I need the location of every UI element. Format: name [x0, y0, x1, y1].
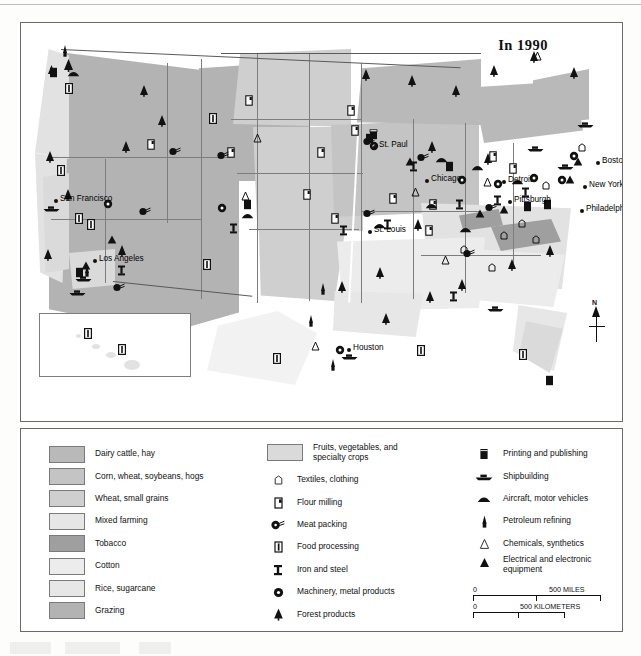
- ship-icon: [75, 275, 92, 282]
- ship-icon: [527, 145, 544, 152]
- legend-label: Cotton: [95, 561, 120, 571]
- open-triangle-icon: [483, 177, 492, 187]
- region-southern-plains-wheat: [259, 231, 345, 301]
- conifer-tree-icon: [157, 115, 167, 127]
- ibeam-icon: [117, 265, 126, 276]
- state-boundary: [237, 173, 363, 174]
- legend-item: Petroleum refining: [473, 510, 623, 532]
- legend-label: Meat packing: [297, 520, 347, 530]
- book-icon: [365, 133, 374, 144]
- filled-triangle-icon: [499, 205, 509, 214]
- legend-label: Chemicals, synthetics: [503, 539, 584, 549]
- state-boundary: [361, 63, 362, 303]
- scale-zero-label: 0: [473, 585, 477, 594]
- state-boundary: [51, 157, 231, 158]
- filled-triangle-icon: [107, 235, 117, 244]
- conifer-tree-icon: [489, 65, 499, 77]
- legend-panel: Dairy cattle, hay Corn, wheat, soybeans,…: [20, 428, 623, 632]
- color-swatch: [49, 513, 85, 530]
- city-dot: [425, 179, 429, 183]
- conifer-tree-icon: [451, 85, 461, 97]
- meat-packing-icon: [363, 209, 375, 218]
- legend-label: Machinery, metal products: [297, 587, 395, 597]
- state-boundary: [105, 159, 106, 283]
- hawaii-island: [92, 344, 100, 349]
- color-swatch: [49, 446, 85, 463]
- ship-icon: [473, 470, 495, 484]
- scale-bars: 0 500 MILES 0 500 KILOMETERS: [473, 587, 625, 623]
- car-dome-icon: [473, 492, 495, 506]
- flour-sack-icon: [331, 213, 339, 224]
- legend-item: Textiles, clothing: [267, 469, 467, 491]
- color-swatch: [49, 535, 85, 552]
- legend-label: Electrical and electronic equipment: [503, 555, 591, 575]
- region-southeast-cotton: [469, 249, 565, 307]
- city-label: New York: [589, 180, 623, 189]
- color-swatch: [49, 602, 85, 619]
- textile-spool-icon: [531, 235, 541, 244]
- legend-label: Iron and steel: [297, 565, 348, 575]
- oil-derrick-icon: [319, 283, 327, 295]
- scale-tick: [473, 595, 474, 601]
- conifer-tree-icon: [267, 608, 289, 622]
- state-boundary: [465, 123, 466, 293]
- food-can-icon: [417, 345, 425, 356]
- flour-sack-icon: [267, 496, 289, 510]
- city-label: St. Paul: [379, 140, 408, 149]
- legend-item: Food processing: [267, 536, 467, 558]
- conifer-tree-icon: [121, 141, 131, 153]
- conifer-tree-icon: [43, 249, 53, 261]
- color-swatch: [49, 558, 85, 575]
- north-arrow-crossbar: [589, 326, 605, 327]
- legend-item: Meat packing: [267, 514, 467, 536]
- flour-sack-icon: [489, 151, 497, 162]
- filled-triangle-icon: [81, 261, 91, 270]
- legend-item: Corn, wheat, soybeans, hogs: [49, 465, 249, 487]
- conifer-tree-icon: [569, 67, 579, 79]
- food-can-icon: [267, 540, 289, 554]
- ship-icon: [69, 289, 86, 296]
- legend-column-land-use: Dairy cattle, hay Corn, wheat, soybeans,…: [49, 443, 249, 622]
- gear-icon: [217, 203, 227, 213]
- legend-item: Wheat, small grains: [49, 488, 249, 510]
- city-label: Detroit: [508, 175, 532, 184]
- city-dot: [580, 209, 584, 213]
- textile-spool-icon: [577, 143, 587, 152]
- meat-packing-icon: [485, 203, 497, 212]
- conifer-tree-icon: [45, 151, 55, 163]
- scale-bar-kilometers: 0 500 KILOMETERS: [473, 604, 625, 623]
- open-triangle-icon: [411, 187, 420, 197]
- legend-item: Shipbuilding: [473, 465, 623, 487]
- filled-triangle-icon: [405, 157, 415, 166]
- state-boundary: [257, 53, 258, 303]
- car-dome-icon: [425, 201, 438, 209]
- flour-sack-icon: [509, 163, 517, 174]
- flour-sack-icon: [317, 147, 325, 158]
- oil-derrick-icon: [307, 315, 315, 327]
- legend-item: Grazing: [49, 600, 249, 622]
- scale-end-label: 500 MILES: [549, 585, 585, 594]
- ibeam-icon: [339, 225, 348, 236]
- meat-packing-icon: [217, 151, 229, 160]
- canada-border-segment: [221, 53, 481, 54]
- book-icon: [545, 375, 554, 386]
- legend-item: Fruits, vegetables, and specialty crops: [267, 443, 467, 469]
- state-boundary: [231, 119, 361, 120]
- conifer-tree-icon: [139, 85, 149, 97]
- legend-column-industry-b: Printing and publishing Shipbuilding Air…: [473, 443, 623, 581]
- car-dome-icon: [459, 225, 472, 233]
- textile-spool-icon: [541, 181, 551, 190]
- scale-tick: [600, 595, 601, 601]
- textile-spool-icon: [499, 231, 509, 240]
- legend-item: Aircraft, motor vehicles: [473, 488, 623, 510]
- oil-derrick-icon: [61, 45, 69, 57]
- food-can-icon: [75, 213, 83, 224]
- city-dot: [502, 180, 506, 184]
- legend-label: Petroleum refining: [503, 516, 571, 526]
- meat-packing-icon: [139, 207, 151, 216]
- car-dome-icon: [471, 163, 484, 171]
- color-swatch: [267, 444, 303, 461]
- flour-sack-icon: [389, 193, 397, 204]
- conifer-tree-icon: [507, 259, 517, 271]
- food-can-icon: [118, 344, 126, 355]
